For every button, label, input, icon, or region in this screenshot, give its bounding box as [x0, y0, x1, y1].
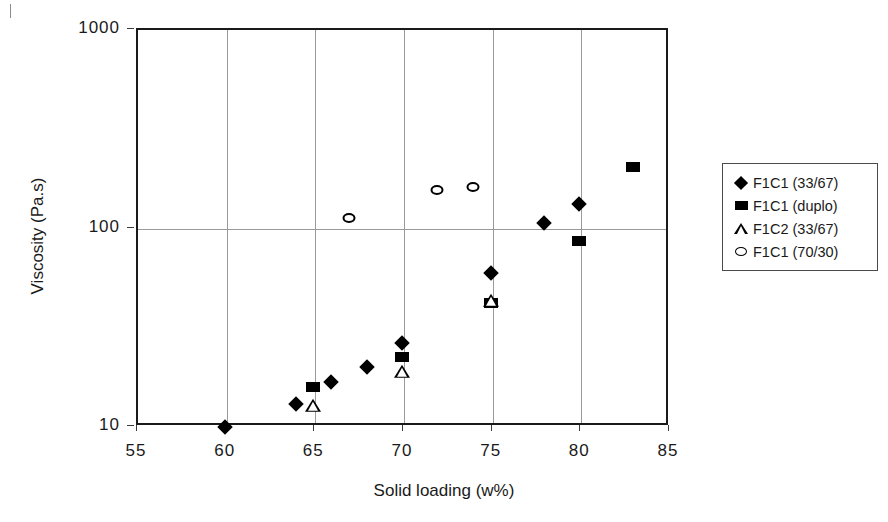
x-axis-tick-label: 85 [658, 441, 679, 461]
legend-item-label: F1C1 (33/67) [751, 175, 838, 191]
y-axis-tick-label: 100 [40, 217, 120, 237]
legend-symbol [734, 175, 748, 189]
legend-item-label: F1C2 (33/67) [751, 221, 838, 237]
chart-figure: 55606570758085101001000 Solid loading (w… [0, 0, 888, 522]
legend-symbol [735, 247, 747, 256]
x-axis-tick [579, 425, 580, 431]
legend-item[interactable]: F1C1 (70/30) [731, 240, 871, 263]
point-marker-triangle [483, 294, 499, 307]
gridline-horizontal [138, 229, 666, 230]
gridline-vertical [315, 30, 316, 423]
point-marker-square [306, 382, 320, 392]
gridline-vertical [227, 30, 228, 423]
legend: F1C1 (33/67)F1C1 (duplo)F1C2 (33/67)F1C1… [722, 163, 878, 271]
legend-item[interactable]: F1C1 (33/67) [731, 171, 871, 194]
legend-item[interactable]: F1C1 (duplo) [731, 194, 871, 217]
point-marker-triangle [394, 364, 410, 377]
legend-marker-open-triangle-icon [731, 221, 751, 237]
x-axis-tick-label: 75 [480, 441, 501, 461]
legend-marker-open-circle-icon [731, 244, 751, 260]
gridline-vertical [493, 30, 494, 423]
x-axis-label: Solid loading (w%) [0, 481, 888, 501]
legend-item-label: F1C1 (70/30) [751, 244, 838, 260]
y-axis-tick-label: 1000 [40, 18, 120, 38]
gridline-vertical [581, 30, 582, 423]
legend-symbol [734, 223, 748, 234]
x-axis-tick-label: 65 [303, 441, 324, 461]
x-axis-tick-label: 80 [569, 441, 590, 461]
x-axis-tick [491, 425, 492, 431]
x-axis-tick [668, 425, 669, 431]
point-marker-square [395, 352, 409, 362]
point-marker-circle [466, 182, 479, 192]
legend-item-label: F1C1 (duplo) [751, 198, 838, 214]
x-axis-tick [136, 425, 137, 431]
point-marker-square [572, 236, 586, 246]
legend-item[interactable]: F1C2 (33/67) [731, 217, 871, 240]
y-axis-tick [127, 227, 134, 228]
point-marker-square [626, 162, 640, 172]
point-marker-triangle [305, 399, 321, 412]
x-axis-tick-label: 70 [392, 441, 413, 461]
legend-marker-filled-square-icon [731, 198, 751, 214]
y-axis-tick [127, 28, 134, 29]
x-axis-tick-label: 60 [214, 441, 235, 461]
scan-artifact-mark [10, 4, 11, 18]
x-axis-tick [313, 425, 314, 431]
x-axis-tick [402, 425, 403, 431]
legend-marker-filled-diamond-icon [731, 175, 751, 191]
y-axis-label: Viscosity (Pa.s) [28, 136, 48, 336]
point-marker-circle [342, 213, 355, 223]
x-axis-label-text: Solid loading (w%) [374, 481, 515, 500]
y-axis-tick [127, 425, 134, 426]
x-axis-tick-label: 55 [126, 441, 147, 461]
point-marker-circle [431, 185, 444, 195]
legend-symbol [735, 201, 748, 210]
y-axis-tick-label: 10 [40, 415, 120, 435]
